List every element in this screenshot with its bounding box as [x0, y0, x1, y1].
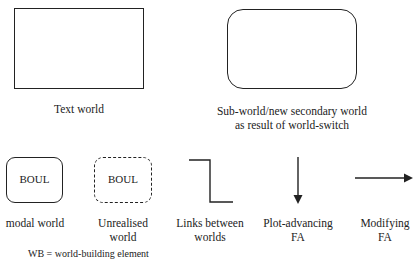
unrealised-world-boul: BOUL — [94, 173, 152, 185]
text-world-label: Text world — [14, 102, 144, 116]
unrealised-world-label-2: world — [88, 230, 158, 244]
sub-world-label-1: Sub-world/new secondary world — [192, 104, 392, 118]
arrow-down-icon — [290, 155, 306, 207]
plot-advancing-label-1: Plot-advancing — [253, 216, 343, 230]
footer-note: WB = world-building element — [28, 247, 149, 261]
modal-world-boul: BOUL — [6, 173, 63, 185]
links-label-1: Links between — [170, 216, 250, 230]
text-world-box — [14, 8, 144, 89]
plot-advancing-label-2: FA — [253, 230, 343, 244]
modifying-label-1: Modifying — [350, 216, 415, 230]
links-label-2: worlds — [170, 230, 250, 244]
sub-world-box — [227, 9, 357, 89]
link-step-icon — [185, 155, 235, 205]
arrow-right-icon — [354, 172, 414, 184]
sub-world-label-2: as result of world-switch — [192, 118, 392, 132]
modifying-label-2: FA — [350, 230, 415, 244]
modal-world-label: modal world — [0, 216, 70, 230]
unrealised-world-label-1: Unrealised — [88, 216, 158, 230]
